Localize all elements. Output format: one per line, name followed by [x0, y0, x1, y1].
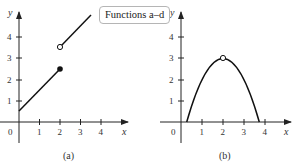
y-tick-label: 1 [169, 96, 174, 106]
x-tick-label: 1 [37, 127, 42, 137]
x-tick-label: 3 [78, 127, 83, 137]
open-point [220, 55, 225, 60]
functions-label-box: Functions a–d [99, 6, 170, 24]
x-axis-label-a: x [121, 126, 127, 137]
filled-point [57, 66, 63, 72]
x-tick-label: 2 [58, 127, 63, 137]
x-tick-label: 0 [171, 127, 176, 137]
y-tick-label: 4 [7, 32, 12, 42]
x-tick-label: 2 [221, 127, 226, 137]
figure: 0 1 2 3 4 1 2 3 4 x y (a) [0, 0, 297, 168]
x-tick-label: 4 [99, 127, 104, 137]
x-axis-label-b: x [283, 126, 289, 137]
x-tick-label: 3 [242, 127, 247, 137]
y-tick-label: 4 [169, 32, 174, 42]
chart-a: 0 1 2 3 4 1 2 3 4 x y (a) [0, 7, 128, 162]
x-tick-label: 1 [200, 127, 205, 137]
segment-1 [19, 69, 60, 111]
x-tick-label: 4 [263, 127, 268, 137]
y-tick-label: 3 [169, 53, 174, 63]
y-tick-label: 2 [169, 75, 174, 85]
open-point [57, 44, 62, 49]
caption-a: (a) [63, 150, 74, 162]
y-tick-label: 1 [7, 96, 12, 106]
x-tick-label: 0 [8, 127, 13, 137]
y-axis-label-a: y [7, 7, 13, 18]
caption-b: (b) [219, 150, 231, 162]
parabola [187, 59, 260, 123]
y-tick-label: 3 [7, 53, 12, 63]
segment-2 [60, 15, 91, 47]
y-tick-label: 2 [7, 75, 12, 85]
chart-b: 0 1 2 3 4 1 2 3 4 x y (b) [160, 7, 291, 162]
